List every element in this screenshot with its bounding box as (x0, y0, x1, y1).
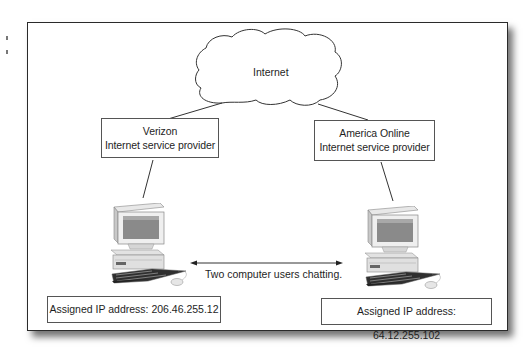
provider-name: Verizon (102, 124, 218, 138)
arrowhead-right-icon (336, 261, 343, 266)
provider-name: America Online (315, 126, 434, 140)
desktop-computer-icon (108, 203, 192, 289)
link-cloud-verizon (168, 103, 222, 119)
provider-box-aol: America Online Internet service provider (314, 120, 435, 161)
link-cloud-aol (318, 104, 368, 120)
link-aol-computer (381, 162, 393, 201)
diagram-canvas: Internet Verizon Internet service provid… (0, 0, 530, 352)
ip-address-box-right: Assigned IP address: 64.12.255.102 (321, 298, 492, 325)
cloud-label: Internet (253, 66, 289, 78)
chat-label: Two computer users chatting. (205, 268, 342, 280)
provider-subtitle: Internet service provider (102, 138, 218, 152)
ip-address-box-left: Assigned IP address: 206.46.255.12 (47, 296, 221, 323)
link-verizon-computer (143, 160, 153, 198)
provider-box-verizon: Verizon Internet service provider (101, 118, 219, 158)
desktop-computer-icon (362, 206, 446, 292)
provider-subtitle: Internet service provider (315, 140, 434, 154)
